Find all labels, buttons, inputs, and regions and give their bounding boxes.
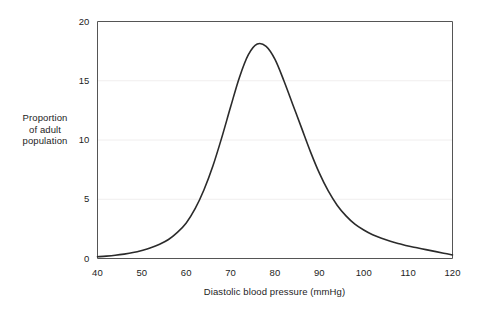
y-tick-label: 10 — [64, 134, 90, 145]
y-tick-label: 15 — [64, 75, 90, 86]
x-tick-label: 100 — [349, 267, 379, 278]
chart-figure: Proportion of adult population 05101520 … — [0, 0, 480, 310]
y-tick-label: 0 — [64, 253, 90, 264]
x-tick-label: 110 — [393, 267, 423, 278]
x-tick-label: 120 — [438, 267, 468, 278]
gridlines — [98, 81, 453, 200]
distribution-curve — [98, 43, 453, 256]
x-tick-label: 60 — [171, 267, 201, 278]
x-tick-label: 80 — [260, 267, 290, 278]
plot-area — [0, 0, 480, 310]
y-tick-label: 5 — [64, 193, 90, 204]
x-tick-label: 70 — [216, 267, 246, 278]
x-tick-label: 90 — [304, 267, 334, 278]
x-tick-label: 50 — [127, 267, 157, 278]
y-tick-label: 20 — [64, 16, 90, 27]
x-tick-label: 40 — [83, 267, 113, 278]
x-axis-title: Diastolic blood pressure (mmHg) — [97, 286, 452, 297]
